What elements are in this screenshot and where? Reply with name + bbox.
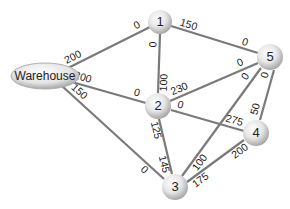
edge-capacity-label: 0 <box>238 70 251 82</box>
node-label: 4 <box>252 125 259 140</box>
node-1: 1 <box>148 10 172 34</box>
edge-capacity-label: 125 <box>149 120 165 140</box>
edge-capacity-label: 0 <box>146 41 158 47</box>
edge-capacity-label: 175 <box>190 169 211 189</box>
node-4: 4 <box>243 120 269 146</box>
edge-capacity-label: 0 <box>139 163 152 176</box>
edge-capacity-label: 0 <box>131 18 142 31</box>
node-label: 5 <box>266 49 273 64</box>
node-2: 2 <box>145 93 171 119</box>
node-label: 2 <box>154 98 161 113</box>
edge-capacity-label: 0 <box>241 35 250 48</box>
node-label: 1 <box>156 14 163 29</box>
edge-capacity-label: 50 <box>247 101 262 116</box>
node-label: 3 <box>171 179 178 194</box>
warehouse-node: Warehouse <box>11 63 79 89</box>
edge-capacity-label: 0 <box>176 98 185 111</box>
edge-capacity-label: 100 <box>157 73 170 91</box>
network-diagram: 2000200015001500010023000275125145010005… <box>0 0 290 209</box>
edge-capacity-label: 145 <box>157 154 173 174</box>
edge-capacity-label: 0 <box>258 70 271 79</box>
edge-capacity-label: 200 <box>229 140 250 160</box>
node-3: 3 <box>162 174 188 200</box>
node-label: Warehouse <box>15 69 76 83</box>
edge-W-1 <box>68 27 150 68</box>
node-5: 5 <box>257 44 283 70</box>
edge-capacity-label: 0 <box>133 85 142 98</box>
edge-capacity-label: 0 <box>235 55 245 68</box>
edge-capacity-label: 100 <box>189 151 209 172</box>
